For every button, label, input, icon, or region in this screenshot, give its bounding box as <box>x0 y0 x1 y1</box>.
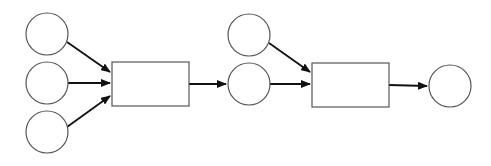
arc-p1-to-t1 <box>67 42 110 72</box>
arc-t2-to-p6 <box>389 85 427 86</box>
transition-t1 <box>112 62 189 106</box>
place-p5 <box>228 63 270 105</box>
place-p1 <box>26 13 68 55</box>
petri-net-diagram <box>0 0 491 166</box>
place-p4 <box>228 14 270 56</box>
place-p3 <box>26 111 68 153</box>
arc-p3-to-t1 <box>67 96 110 127</box>
place-p6 <box>429 65 471 107</box>
place-p2 <box>26 62 68 104</box>
arc-p4-to-t2 <box>269 43 310 72</box>
transition-t2 <box>312 63 389 107</box>
